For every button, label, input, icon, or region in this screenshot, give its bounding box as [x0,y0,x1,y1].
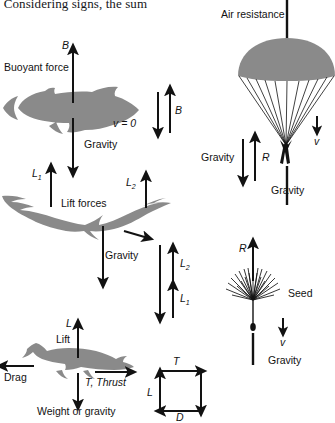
seed-resistance-symbol: R [239,243,247,254]
parachute-shroud-lines [239,76,334,145]
parachute-gravity-bottom-label: Gravity [271,185,304,196]
airplane-lift-symbol: L [66,318,72,329]
buoyant-force-label: Buoyant force [4,62,69,73]
parachute-canopy [238,38,335,81]
seed-body [250,323,256,331]
lift-one-balance-symbol: L1 [180,293,190,306]
airplane-weight-label: Weight or gravity [37,406,116,417]
lift-one-symbol: L1 [32,168,42,181]
lift-two-symbol: L2 [126,177,136,190]
parachute-gravity-label: Gravity [201,152,234,163]
seed-gravity-label: Gravity [268,355,301,366]
seed-label: Seed [288,288,313,299]
fish-balance-symbol: B [175,105,182,116]
panel-parachute [238,0,335,205]
buoyant-force-symbol: B [62,40,69,51]
airplane-thrust-label: T, Thrust [85,377,126,388]
lift-two-balance-symbol: L2 [180,258,190,271]
lift-forces-label: Lift forces [61,198,107,209]
bird-motion-arrow [124,231,148,238]
parachute-velocity-symbol: v [314,136,319,147]
seed-velocity-symbol: v [280,337,285,348]
parachutist-head [283,143,288,148]
airplane-drag-label: Drag [4,372,27,383]
panel-seed [226,243,283,365]
parachute-resistance-symbol: R [262,152,270,163]
seed-pappus [226,267,280,300]
fish-velocity-label: v = 0 [113,118,136,129]
loop-lift-symbol: L [147,387,153,398]
airplane-lift-label: Lift [56,334,70,345]
fish-gravity-label: Gravity [84,139,117,150]
bird-gravity-label: Gravity [105,250,138,261]
panel-bird [2,168,173,318]
loop-thrust-symbol: T [173,356,179,367]
panel-vector-loop [160,371,201,411]
air-resistance-label: Air resistance [221,9,285,20]
loop-drag-symbol: D [176,412,184,423]
